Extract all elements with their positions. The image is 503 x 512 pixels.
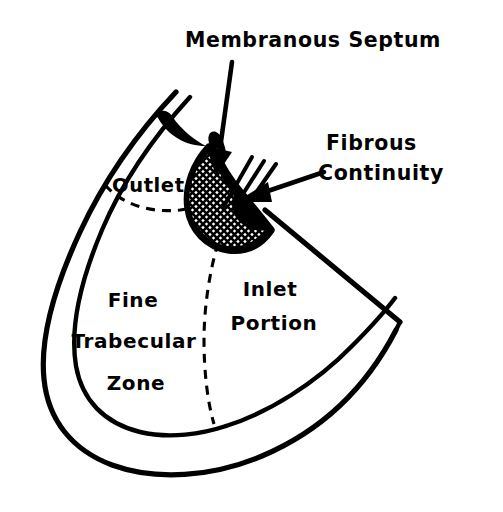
label-inlet-line2: Portion (231, 311, 318, 335)
label-fibrous-continuity-line1: Fibrous (326, 131, 417, 155)
label-ftz-line2: Trabecular (72, 329, 197, 353)
label-fibrous-continuity-line2: Continuity (318, 161, 444, 185)
diagram-canvas: Membranous Septum Fibrous Continuity Out… (0, 0, 503, 512)
background (0, 0, 503, 512)
anatomical-diagram-svg: Membranous Septum Fibrous Continuity Out… (0, 0, 503, 512)
label-membranous-septum: Membranous Septum (185, 28, 441, 52)
label-ftz-line1: Fine (108, 288, 159, 312)
label-ftz-line3: Zone (107, 371, 165, 395)
label-inlet-line1: Inlet (243, 277, 298, 301)
label-outlet: Outlet (112, 174, 185, 197)
